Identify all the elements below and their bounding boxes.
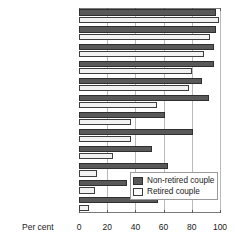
legend-item-non-retired-couple: Non-retired couple [133, 175, 214, 186]
bar [79, 136, 131, 142]
bar-group [79, 111, 220, 128]
x-tick-label: 40 [123, 222, 147, 232]
bar [79, 163, 168, 169]
bar [79, 129, 193, 135]
bar [79, 153, 113, 159]
bar-group [79, 128, 220, 145]
bar [79, 17, 219, 23]
bar [79, 95, 209, 101]
gridline [220, 8, 221, 213]
bar [79, 146, 152, 152]
bar [79, 9, 216, 15]
axis-tick [220, 8, 221, 11]
bar [79, 119, 131, 125]
x-tick-label: 100 [208, 222, 232, 232]
bar-chart: TelephoneWashing machineCentral heatingV… [0, 0, 235, 239]
bar [79, 44, 214, 50]
bar-group [79, 93, 220, 110]
x-tick-label: 80 [180, 222, 204, 232]
bar [79, 26, 216, 32]
bar [79, 102, 157, 108]
bar-group [79, 42, 220, 59]
legend-item-retired-couple: Retired couple [133, 186, 214, 197]
legend-label-retired: Retired couple [147, 187, 200, 197]
x-tick-label: 0 [67, 222, 91, 232]
bar-group [79, 59, 220, 76]
x-tick-label: 20 [95, 222, 119, 232]
bar [79, 85, 189, 91]
bar [79, 180, 127, 186]
legend-label-non-retired: Non-retired couple [147, 176, 214, 186]
bar [79, 187, 95, 193]
bar [79, 34, 210, 40]
bar-group [79, 25, 220, 42]
legend-swatch-icon-non-retired [133, 177, 143, 185]
bar-group [79, 145, 220, 162]
x-tick-label: 60 [152, 222, 176, 232]
bar [79, 205, 89, 211]
bar [79, 112, 165, 118]
bar [79, 170, 97, 176]
bar [79, 51, 204, 57]
bar [79, 78, 202, 84]
bar-group [79, 76, 220, 93]
bar [79, 61, 214, 67]
bar-group [79, 8, 220, 25]
axis-tick [220, 210, 221, 213]
legend: Non-retired couple Retired couple [130, 172, 218, 200]
bar [79, 68, 192, 74]
x-axis-title: Per cent [22, 222, 54, 232]
legend-swatch-icon-retired [133, 188, 143, 196]
